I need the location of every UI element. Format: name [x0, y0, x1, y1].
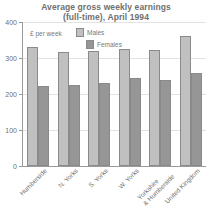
x-axis-label-line: Humberside — [18, 167, 48, 197]
bar-group — [176, 22, 207, 166]
chart-title-line-2: (full-time), April 1994 — [0, 12, 212, 22]
bar-males — [149, 50, 160, 166]
legend-swatch-males-icon — [76, 28, 84, 37]
bar-females — [38, 86, 49, 166]
chart-container: Average gross weekly earnings (full-time… — [0, 0, 212, 218]
bar-males — [119, 49, 130, 166]
bar-females — [130, 78, 141, 166]
bar-males — [58, 52, 69, 166]
bar-group — [23, 22, 54, 166]
bar-group — [54, 22, 85, 166]
x-axis-label-line: W. Yorks — [117, 167, 140, 190]
legend-item-males: Males — [76, 28, 104, 37]
bar-group — [145, 22, 176, 166]
bar-males — [27, 47, 38, 166]
x-axis-label-line: N. Yorks — [57, 167, 79, 189]
bar-males — [88, 51, 99, 166]
y-axis-tick-label: 300 — [5, 55, 17, 62]
x-axis-label: S. Yorks — [87, 167, 109, 189]
y-axis-tick-label: 0 — [13, 163, 17, 170]
x-axis-label: Humberside — [18, 167, 48, 197]
legend-units-label: £ per week — [30, 30, 62, 37]
x-axis-label: W. Yorks — [117, 167, 140, 190]
chart-title: Average gross weekly earnings (full-time… — [0, 2, 212, 22]
bar-females — [99, 83, 110, 166]
x-axis-label: N. Yorks — [57, 167, 79, 189]
y-axis-tick-label: 100 — [5, 127, 17, 134]
legend-item-females: Females — [86, 40, 122, 49]
legend-label-females: Females — [97, 41, 122, 48]
bar-males — [180, 36, 191, 166]
y-axis-tick-label: 400 — [5, 19, 17, 26]
y-axis-tick-label: 200 — [5, 91, 17, 98]
bar-females — [160, 80, 171, 166]
bar-females — [191, 73, 202, 166]
bar-females — [69, 85, 80, 166]
legend-swatch-females-icon — [86, 40, 94, 49]
legend-label-males: Males — [87, 29, 104, 36]
chart-title-line-1: Average gross weekly earnings — [0, 2, 212, 12]
x-axis-labels: HumbersideN. YorksS. YorksW. YorksYorksh… — [22, 167, 205, 217]
x-axis-label-line: S. Yorks — [87, 167, 109, 189]
